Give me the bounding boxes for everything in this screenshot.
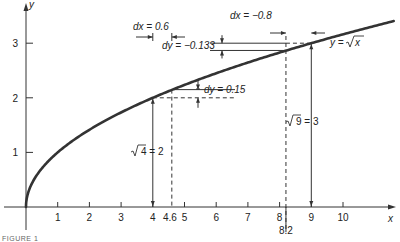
x-tick-label: 1 [55,212,61,223]
x-tick-label: 2 [87,212,93,223]
x-axis-arrow-icon [388,205,396,210]
arrow-down-icon [151,201,155,206]
x-tick-label: 8 [277,212,283,223]
arrow-right-icon [281,31,286,35]
ticks: 12345678910123 [12,38,349,223]
x-tick-label: 4 [150,212,156,223]
sqrt4-label: 4 = 2 [141,146,164,157]
dx1-label: dx = 0.6 [133,21,169,32]
arrow-up-icon [220,50,224,55]
arrow-right-icon [148,35,153,39]
sqrt9-label: 9 = 3 [296,116,319,127]
arrow-left-icon [172,35,177,39]
y-axis-label: y [28,0,35,10]
dy1-label: dy = 0.15 [204,84,246,95]
x-axis-label: x [387,213,394,224]
y-tick-label: 3 [12,38,18,49]
figure-caption: FIGURE 1 [2,235,38,242]
y-tick-label: 2 [12,93,18,104]
dx2-label: dx = −0.8 [230,10,272,21]
arrow-left-icon [311,31,316,35]
x-tick-label: 6 [213,212,219,223]
x-label-8-2: 8.2 [279,225,293,236]
arrow-down-icon [220,38,224,43]
x-tick-label: 9 [309,212,315,223]
x-tick-label: 3 [118,212,124,223]
curve-label-prefix: y = [329,37,344,48]
text-labels: y x y = dx = 0.6 dy = 0.15 dx = −0.8 dy … [2,0,394,242]
curve-label-x: x [354,37,361,48]
x-tick-label: 5 [182,212,188,223]
chart-canvas: 12345678910123 x y x y = dx = 0.6 dy = 0… [0,0,400,242]
x-label-4-6: 4.6 [163,212,177,223]
annotations: x [131,31,364,232]
y-tick-label: 1 [12,147,18,158]
x-tick-label: 7 [245,212,251,223]
arrow-down-icon [309,201,313,206]
arrow-up-icon [196,98,200,103]
x-tick-label: 10 [337,212,349,223]
dy2-label: dy = −0.133 [162,40,215,51]
y-axis-arrow-icon [24,3,29,11]
